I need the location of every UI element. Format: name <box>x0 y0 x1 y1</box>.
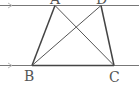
label-a: A <box>49 0 61 7</box>
segment-ab <box>32 6 55 66</box>
trapezoid-diagram: A D B C <box>0 0 139 88</box>
diagonal-bd <box>32 6 101 66</box>
label-d: D <box>96 0 107 7</box>
label-b: B <box>24 68 34 84</box>
segment-dc <box>101 6 114 66</box>
label-c: C <box>109 69 120 85</box>
diagonal-ac <box>55 6 114 66</box>
